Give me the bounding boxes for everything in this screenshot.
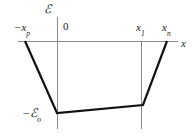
left-depletion-edge-label: −xp bbox=[14, 22, 30, 33]
right-depletion-edge-label: xn bbox=[162, 22, 171, 33]
x1-tick-subscript: 1 bbox=[141, 29, 145, 38]
electric-field-curve bbox=[25, 41, 167, 113]
x1-tick-label: x1 bbox=[136, 22, 145, 33]
peak-field-base: −ℰ bbox=[22, 106, 37, 120]
y-axis-symbol-label: ℰ bbox=[44, 3, 51, 15]
right-depletion-edge-subscript: n bbox=[167, 29, 171, 38]
peak-field-subscript: o bbox=[37, 115, 41, 124]
left-depletion-edge-base: −x bbox=[14, 21, 26, 33]
origin-label: 0 bbox=[63, 21, 69, 32]
peak-field-label: −ℰo bbox=[22, 107, 41, 119]
electric-field-figure: ℰ 0 x −xp x1 xn −ℰo bbox=[0, 0, 192, 137]
x-axis-symbol-label: x bbox=[181, 38, 186, 49]
left-depletion-edge-subscript: p bbox=[26, 29, 30, 38]
